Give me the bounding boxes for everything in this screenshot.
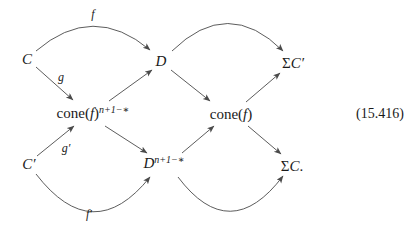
node-roman-prefix: cone( bbox=[57, 105, 90, 121]
node-superscript: n+1−∗ bbox=[154, 154, 184, 165]
node-D-dual: Dn+1−∗ bbox=[143, 156, 184, 171]
node-sigma-C: ΣC. bbox=[281, 159, 304, 174]
node-D: D bbox=[156, 54, 167, 69]
edge-label-f-prime: f′ bbox=[86, 208, 92, 220]
edge-label-f: f bbox=[91, 8, 94, 20]
node-roman-prefix: Σ bbox=[281, 158, 290, 174]
node-italic: C′ bbox=[22, 156, 35, 172]
node-italic: C′ bbox=[291, 55, 304, 71]
node-italic: D bbox=[156, 53, 167, 69]
node-roman-prefix: Σ bbox=[282, 55, 291, 71]
node-cone-f: cone(f) bbox=[210, 107, 252, 122]
node-post: . bbox=[300, 158, 304, 174]
node-C-prime: C′ bbox=[22, 157, 35, 172]
arrow-g bbox=[36, 67, 73, 100]
node-italic: D bbox=[143, 155, 154, 171]
arrow-D-to-cone-f bbox=[171, 70, 210, 101]
node-italic: C bbox=[289, 158, 299, 174]
arrow-D-dual-to-cone-f bbox=[182, 126, 214, 153]
node-roman-suffix: ) bbox=[247, 106, 252, 122]
arrow-D-to-sigma-C-prime-curve bbox=[172, 24, 283, 52]
edge-label-g: g bbox=[58, 71, 64, 83]
node-superscript: n+1−∗ bbox=[99, 104, 129, 115]
arrow-f-curve bbox=[36, 26, 150, 51]
arrow-cone-f-to-sigma-C bbox=[248, 126, 281, 154]
arrow-f-prime-curve bbox=[36, 174, 150, 212]
node-sigma-C-prime: ΣC′ bbox=[282, 56, 304, 71]
node-italic: C bbox=[22, 51, 32, 67]
node-cone-f-dual: cone(f)n+1−∗ bbox=[57, 106, 130, 121]
equation-number: (15.416) bbox=[356, 107, 404, 121]
arrow-D-dual-to-sigma-C-curve bbox=[178, 176, 283, 211]
node-C: C bbox=[22, 52, 32, 67]
edge-label-g-prime: g′ bbox=[62, 142, 71, 154]
commutative-diagram: C D ΣC′ cone(f)n+1−∗ cone(f) C′ Dn+1−∗ Σ… bbox=[0, 0, 412, 233]
node-roman-prefix: cone( bbox=[210, 106, 243, 122]
arrow-cone-dual-to-D-dual bbox=[105, 126, 147, 153]
arrow-cone-dual-to-D bbox=[109, 70, 152, 101]
arrow-cone-f-to-sigma-C-prime bbox=[246, 73, 280, 102]
